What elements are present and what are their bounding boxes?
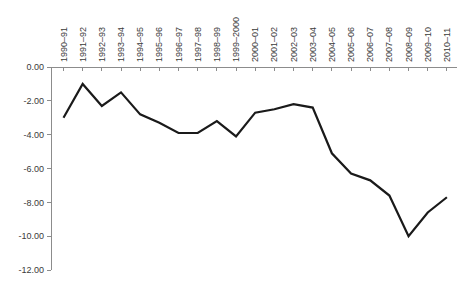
x-tick-label: 1997–98 bbox=[193, 27, 203, 62]
x-tick-label: 2001–02 bbox=[269, 27, 279, 62]
x-tick-label: 1994–95 bbox=[135, 27, 145, 62]
y-tick-label: -12.00 bbox=[18, 265, 44, 275]
chart-figure: 1990–911991–921992–931993–941994–951995–… bbox=[0, 0, 459, 290]
x-tick-label: 2000–01 bbox=[250, 27, 260, 62]
x-tick-label: 1996–97 bbox=[174, 27, 184, 62]
x-tick-label: 1992–93 bbox=[97, 27, 107, 62]
x-tick-label: 2010–11 bbox=[442, 28, 452, 62]
x-tick-label: 2009–10 bbox=[423, 27, 433, 62]
x-tick-label: 2003–04 bbox=[308, 27, 318, 62]
y-axis bbox=[47, 67, 52, 270]
y-tick-label: 0.00 bbox=[26, 62, 44, 72]
y-tick-label: -6.00 bbox=[23, 164, 44, 174]
x-tick-labels: 1990–911991–921992–931993–941994–951995–… bbox=[59, 17, 452, 62]
y-tick-label: -4.00 bbox=[23, 130, 44, 140]
x-tick-label: 1998–99 bbox=[212, 27, 222, 62]
y-tick-label: -8.00 bbox=[23, 198, 44, 208]
x-axis bbox=[51, 67, 457, 71]
x-tick-label: 2006–07 bbox=[365, 27, 375, 62]
x-tick-label: 1995–96 bbox=[154, 27, 164, 62]
x-tick-label: 2004–05 bbox=[327, 27, 337, 62]
y-tick-labels: 0.00-2.00-4.00-6.00-8.00-10.00-12.00 bbox=[18, 62, 44, 275]
data-series bbox=[64, 84, 447, 236]
x-tick-label: 1993–94 bbox=[116, 27, 126, 62]
y-tick-label: -2.00 bbox=[23, 96, 44, 106]
x-tick-label: 2007–08 bbox=[384, 27, 394, 62]
x-tick-label: 2005–06 bbox=[346, 27, 356, 62]
x-tick-label: 2002–03 bbox=[289, 27, 299, 62]
y-tick-label: -10.00 bbox=[18, 231, 44, 241]
x-tick-label: 1991–92 bbox=[78, 27, 88, 62]
x-tick-label: 1999–2000 bbox=[231, 17, 241, 62]
data-line bbox=[64, 84, 447, 236]
x-tick-label: 2008–09 bbox=[404, 27, 414, 62]
line-chart: 1990–911991–921992–931993–941994–951995–… bbox=[0, 0, 459, 290]
x-tick-label: 1990–91 bbox=[59, 27, 69, 62]
